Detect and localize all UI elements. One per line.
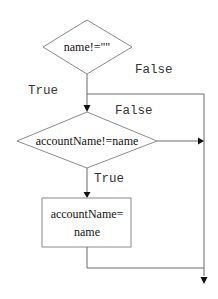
edge-process-exit bbox=[87, 247, 204, 268]
edge-decision1-true: True bbox=[28, 74, 91, 112]
edge-decision2-true: True bbox=[84, 168, 125, 198]
arrow-down-icon bbox=[84, 192, 91, 198]
process-label-line-2: name bbox=[74, 225, 100, 239]
arrow-down-icon bbox=[84, 105, 91, 112]
decision-2-label: accountName!=name bbox=[36, 134, 139, 148]
arrow-right-icon bbox=[198, 138, 204, 145]
decision-node-name-not-empty: name!="" bbox=[43, 20, 132, 74]
connector-line bbox=[87, 247, 204, 268]
rectangle-shape bbox=[42, 198, 131, 247]
edge-label-true-1: True bbox=[28, 84, 58, 98]
edge-label-true-2: True bbox=[94, 172, 124, 186]
process-label-line-1: accountName= bbox=[51, 207, 124, 221]
flowchart-canvas: name!="" True False accountName!=name Fa… bbox=[0, 0, 218, 299]
decision-node-account-name-changed: accountName!=name bbox=[17, 112, 157, 168]
edge-label-false-2: False bbox=[115, 104, 153, 118]
edge-label-false-1: False bbox=[135, 63, 173, 77]
exit-arrow-down-icon bbox=[201, 277, 208, 284]
process-node-assign-account-name: accountName= name bbox=[42, 198, 131, 247]
decision-1-label: name!="" bbox=[64, 40, 111, 54]
